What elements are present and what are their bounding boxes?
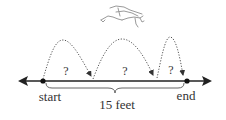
jump-label-3: ? xyxy=(168,63,173,77)
end-point xyxy=(184,78,189,83)
start-label: start xyxy=(39,89,62,104)
start-point xyxy=(40,78,45,83)
end-label: end xyxy=(177,88,196,103)
frog-icon xyxy=(101,6,144,27)
distance-brace xyxy=(46,83,184,93)
jump-label-1: ? xyxy=(63,64,68,78)
total-distance-label: 15 feet xyxy=(99,97,135,112)
jump-label-2: ? xyxy=(122,64,127,78)
number-line-diagram: ? ? ? start end 15 feet xyxy=(0,0,226,120)
